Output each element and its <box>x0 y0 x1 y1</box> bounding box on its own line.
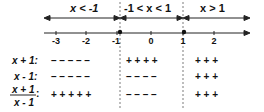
row0-signs-left: – – – – – <box>51 55 90 66</box>
tick-label: 2 <box>211 36 216 46</box>
row2-signs-left: + + + + + <box>51 89 91 100</box>
interval-label-right: x > 1 <box>200 2 225 14</box>
row0-signs-right: + + + <box>195 55 218 66</box>
point-one <box>182 30 186 34</box>
row-label-quotient-colon: : <box>36 88 39 99</box>
tick-label: -2 <box>82 36 90 46</box>
row1-signs-left: – – – – – <box>51 71 90 82</box>
interval-label-middle: -1 < x < 1 <box>124 2 171 14</box>
row2-signs-right: + + + <box>195 89 218 100</box>
tick-label: 0 <box>148 36 153 46</box>
row1-signs-right: + + + <box>195 71 218 82</box>
row2-signs-middle: – – – – <box>126 89 157 100</box>
row0-signs-middle: + + + + <box>126 55 158 66</box>
row-label-x-plus-1: x + 1: <box>12 55 38 66</box>
point-minus-one <box>118 30 122 34</box>
row-label-x-minus-1: x - 1: <box>14 71 37 82</box>
tick-label: 1 <box>180 36 185 46</box>
row1-signs-middle: – – – – <box>126 71 157 82</box>
interval-label-left: x < -1 <box>70 2 98 14</box>
tick-label: -3 <box>52 36 60 46</box>
row-label-quotient-den: x - 1 <box>14 97 34 108</box>
tick-label: -1 <box>112 36 120 46</box>
row-label-quotient-num: x + 1 <box>12 84 35 95</box>
